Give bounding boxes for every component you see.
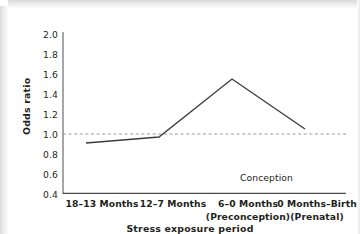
chart-svg: 2.0 1.8 1.6 1.4 1.2 1.0 0.8 0.6 0.4 Odds… bbox=[0, 0, 360, 234]
y-tick-label-1.2: 1.2 bbox=[43, 109, 58, 120]
y-tick-label-1.0: 1.0 bbox=[43, 129, 58, 140]
y-tick-label-0.8: 0.8 bbox=[43, 149, 58, 160]
x-tick-label-0-months-birth: 0 Months–Birth bbox=[277, 198, 357, 209]
x-tick-sublabel-prenatal: (Prenatal) bbox=[290, 211, 343, 222]
y-tick-label-0.6: 0.6 bbox=[43, 169, 58, 180]
y-tick-label-2.0: 2.0 bbox=[43, 29, 58, 40]
x-tick-label-6-0-months: 6–0 Months bbox=[218, 198, 278, 209]
x-tick-label-18-13-months: 18–13 Months bbox=[66, 198, 139, 209]
y-tick-label-0.4: 0.4 bbox=[43, 189, 58, 200]
y-tick-label-1.6: 1.6 bbox=[43, 69, 58, 80]
odds-ratio-series-line bbox=[86, 79, 305, 143]
odds-ratio-line-chart: 2.0 1.8 1.6 1.4 1.2 1.0 0.8 0.6 0.4 Odds… bbox=[0, 0, 360, 234]
y-tick-label-1.8: 1.8 bbox=[43, 49, 58, 60]
x-axis-title: Stress exposure period bbox=[126, 223, 253, 234]
conception-annotation: Conception bbox=[240, 172, 293, 183]
x-tick-label-12-7-months: 12–7 Months bbox=[140, 198, 207, 209]
y-axis-title: Odds ratio bbox=[21, 77, 32, 135]
y-tick-label-1.4: 1.4 bbox=[43, 89, 58, 100]
x-tick-sublabel-preconception: (Preconception) bbox=[206, 211, 290, 222]
